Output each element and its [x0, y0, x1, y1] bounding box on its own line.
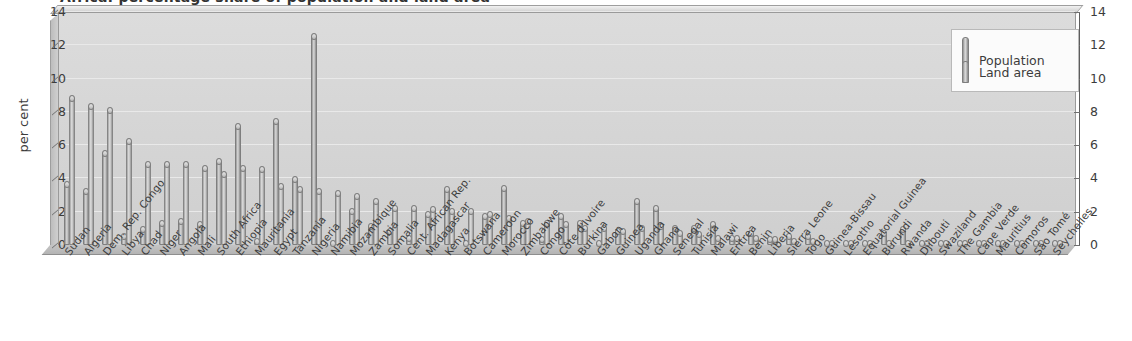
bar-cap	[216, 158, 222, 165]
bar-group	[216, 12, 235, 245]
y-tick-label-right: 12	[1090, 37, 1106, 52]
bar-group	[748, 12, 767, 245]
bar-group	[653, 12, 672, 245]
bar-cap	[297, 186, 303, 193]
bar-cap	[235, 123, 241, 130]
bar-cap	[221, 171, 227, 178]
chart-root: Africa: percentage share of population a…	[0, 0, 1132, 341]
bar-group	[691, 12, 710, 245]
y-tick-mark-right	[1074, 245, 1080, 246]
bar-group	[311, 12, 330, 245]
bar-group	[197, 12, 216, 245]
bar-cap	[107, 107, 113, 114]
bar-group	[330, 12, 349, 245]
bar-group	[83, 12, 102, 245]
bar-series-container	[58, 12, 1076, 245]
y-tick-label-right: 6	[1090, 137, 1098, 152]
bar-cap	[311, 33, 317, 40]
bar-cap	[501, 185, 507, 192]
bar-cap	[354, 193, 360, 200]
bar-cap	[292, 176, 298, 183]
x-axis-labels: SudanAlgeriaDem. Rep. CongoLibyaChadNige…	[58, 250, 1076, 341]
plot-area: per cent 02468101214 02468101214 SudanAl…	[0, 0, 1132, 341]
legend-item-land-area[interactable]: Land area	[962, 61, 1041, 83]
bar-cap	[335, 190, 341, 197]
legend-label-land-area: Land area	[979, 65, 1041, 80]
y-tick-label-right: 8	[1090, 104, 1098, 119]
bar-group	[520, 12, 539, 245]
bar-cap	[88, 103, 94, 110]
bar-group	[159, 12, 178, 245]
bar-group	[558, 12, 577, 245]
bar-group	[767, 12, 786, 245]
bar-group	[634, 12, 653, 245]
bar-group	[406, 12, 425, 245]
bar-group	[292, 12, 311, 245]
bar-cap	[373, 198, 379, 205]
y-tick-label-right: 14	[1090, 4, 1106, 19]
bar-group	[178, 12, 197, 245]
y-tick-label-right: 10	[1090, 71, 1106, 86]
bar-cap	[411, 205, 417, 212]
bar-group	[729, 12, 748, 245]
bar-group	[710, 12, 729, 245]
bar-cap	[240, 165, 246, 172]
bar-group	[349, 12, 368, 245]
bar-group	[64, 12, 83, 245]
bar-cap	[278, 183, 284, 190]
bar-land-area[interactable]	[69, 97, 75, 245]
bar-cap	[202, 165, 208, 172]
bar-cap	[273, 118, 279, 125]
bar-cap	[69, 95, 75, 102]
bar-land-area[interactable]	[88, 105, 94, 245]
bar-cap	[183, 161, 189, 168]
land-area-swatch	[962, 61, 969, 83]
y-tick-label-right: 4	[1090, 170, 1098, 185]
y-axis-label: per cent	[16, 98, 31, 152]
bar-cap	[634, 198, 640, 205]
bar-cap	[316, 188, 322, 195]
bar-group	[102, 12, 121, 245]
bar-group	[919, 12, 938, 245]
bar-group	[786, 12, 805, 245]
bar-cap	[126, 138, 132, 145]
bar-group	[672, 12, 691, 245]
legend: Population Land area	[951, 29, 1079, 92]
bar-cap	[145, 161, 151, 168]
bar-cap	[164, 161, 170, 168]
y-tick-label-right: 0	[1090, 237, 1098, 252]
bar-cap	[653, 205, 659, 212]
bar-group	[615, 12, 634, 245]
bar-cap	[259, 166, 265, 173]
